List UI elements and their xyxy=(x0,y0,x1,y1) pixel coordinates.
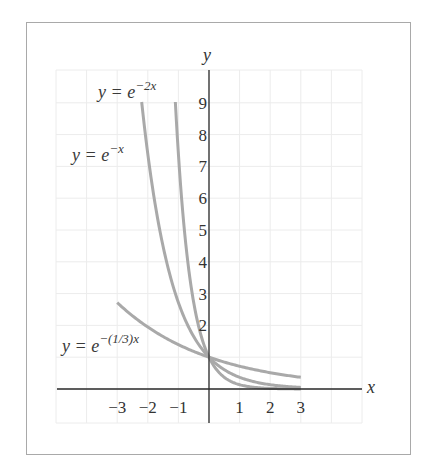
y-tick-label: 3 xyxy=(199,285,208,304)
y-axis-label: y xyxy=(201,45,211,65)
x-tick-label: 3 xyxy=(297,398,306,417)
x-tick-labels: −3−2−1123 xyxy=(108,398,305,417)
y-tick-label: 8 xyxy=(199,126,208,145)
exponential-chart: x y −3−2−1123 23456789 y = e−2x y = e−x … xyxy=(0,0,424,475)
y-tick-label: 2 xyxy=(199,316,208,335)
curve-e-minus-2x xyxy=(175,102,300,389)
label-e-minus-third-x: y = e−(1/3)x xyxy=(60,331,139,356)
y-tick-label: 7 xyxy=(199,157,208,176)
x-tick-label: −3 xyxy=(108,398,126,417)
x-tick-label: 2 xyxy=(266,398,275,417)
y-tick-labels: 23456789 xyxy=(199,94,208,336)
label-e-minus-x: y = e−x xyxy=(70,141,124,165)
x-tick-label: 1 xyxy=(235,398,244,417)
y-tick-label: 9 xyxy=(199,94,208,113)
y-tick-label: 4 xyxy=(199,253,208,272)
x-tick-label: −1 xyxy=(169,398,187,417)
curve-e-minus-x xyxy=(142,102,301,387)
y-tick-label: 5 xyxy=(199,221,208,240)
x-tick-label: −2 xyxy=(139,398,157,417)
x-axis-label: x xyxy=(366,377,375,397)
y-tick-label: 6 xyxy=(199,189,208,208)
